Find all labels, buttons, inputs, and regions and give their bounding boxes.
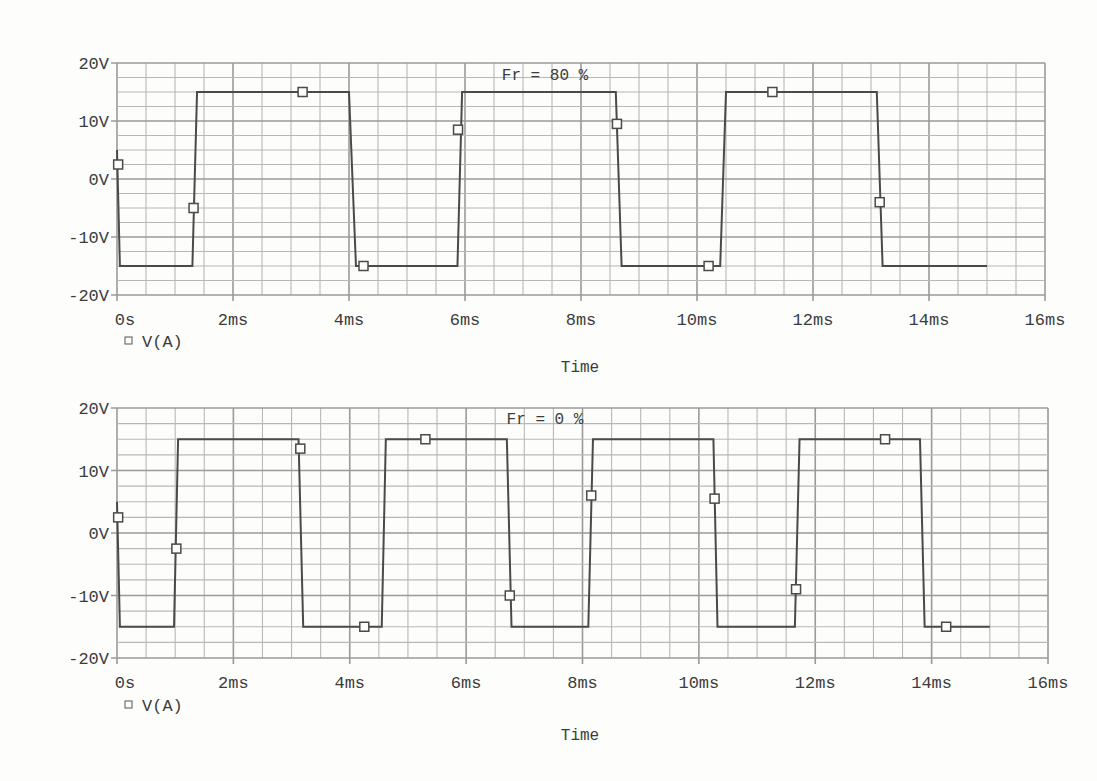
legend-square-icon — [125, 337, 132, 344]
y-tick-label: 10V — [78, 463, 109, 482]
x-tick-label: 16ms — [1025, 311, 1066, 330]
data-marker — [587, 491, 596, 500]
data-marker — [875, 198, 884, 207]
data-marker — [298, 88, 307, 97]
x-axis-label: Time — [561, 359, 599, 377]
y-tick-label: -20V — [68, 287, 110, 306]
x-tick-label: 2ms — [218, 311, 249, 330]
data-marker — [881, 435, 890, 444]
grid — [111, 408, 1048, 664]
data-marker — [704, 262, 713, 271]
data-marker — [505, 591, 514, 600]
x-axis-label: Time — [561, 727, 599, 745]
x-tick-label: 16ms — [1028, 674, 1069, 693]
data-marker — [189, 204, 198, 213]
y-tick-label: 20V — [78, 55, 109, 74]
x-tick-label: 4ms — [334, 311, 365, 330]
data-marker — [454, 125, 463, 134]
y-tick-label: 10V — [78, 113, 109, 132]
x-tick-label: 12ms — [795, 674, 836, 693]
data-marker — [710, 494, 719, 503]
plot-bottom: 20V10V0V-10V-20V0s2ms4ms6ms8ms10ms12ms14… — [68, 400, 1068, 745]
data-marker — [421, 435, 430, 444]
data-marker — [792, 585, 801, 594]
y-tick-label: 0V — [89, 171, 110, 190]
data-marker — [114, 513, 123, 522]
y-tick-label: 0V — [89, 525, 110, 544]
y-tick-label: 20V — [78, 400, 109, 419]
legend-label: V(A) — [142, 333, 183, 352]
x-tick-label: 6ms — [450, 311, 481, 330]
plot-title: Fr = 80 % — [502, 67, 589, 85]
y-tick-label: -10V — [68, 588, 110, 607]
plot-top: 20V10V0V-10V-20V0s2ms4ms6ms8ms10ms12ms14… — [68, 55, 1065, 377]
x-tick-label: 6ms — [451, 674, 482, 693]
legend-label: V(A) — [142, 697, 183, 716]
chart-canvas: 20V10V0V-10V-20V0s2ms4ms6ms8ms10ms12ms14… — [0, 0, 1097, 781]
data-marker — [296, 444, 305, 453]
x-tick-label: 4ms — [334, 674, 365, 693]
x-tick-label: 10ms — [677, 311, 718, 330]
x-tick-label: 0s — [115, 311, 135, 330]
x-tick-label: 10ms — [678, 674, 719, 693]
x-tick-label: 14ms — [911, 674, 952, 693]
legend-square-icon — [125, 701, 132, 708]
x-tick-label: 0s — [115, 674, 135, 693]
x-tick-label: 12ms — [793, 311, 834, 330]
x-tick-label: 2ms — [218, 674, 249, 693]
y-tick-label: -10V — [68, 229, 110, 248]
data-marker — [114, 160, 123, 169]
data-marker — [612, 119, 621, 128]
data-marker — [768, 88, 777, 97]
data-marker — [359, 262, 368, 271]
plot-title: Fr = 0 % — [507, 411, 584, 429]
x-tick-label: 8ms — [566, 311, 597, 330]
data-marker — [942, 622, 951, 631]
data-marker — [172, 544, 181, 553]
y-tick-label: -20V — [68, 650, 110, 669]
x-tick-label: 14ms — [909, 311, 950, 330]
x-tick-label: 8ms — [567, 674, 598, 693]
data-marker — [360, 622, 369, 631]
